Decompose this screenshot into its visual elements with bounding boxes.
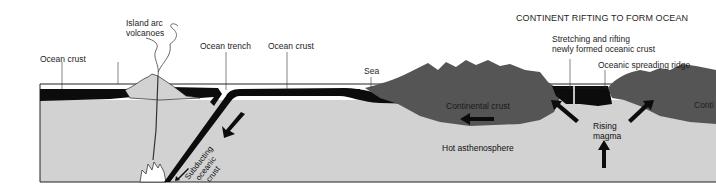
label-hot-asthenosphere: Hot asthenosphere [442,143,514,153]
label-rising-magma: Rising magma [593,121,621,141]
label-sea: Sea [364,66,379,76]
label-ocean-trench: Ocean trench [200,41,251,51]
label-continental-crust: Continental crust [446,101,510,111]
volcano-cone [125,74,200,100]
label-continental-right: Conti [694,100,714,110]
label-ocean-crust-mid: Ocean crust [268,41,314,51]
label-ocean-crust-left: Ocean crust [40,54,86,64]
label-spreading-ridge: Oceanic spreading ridge [598,60,690,70]
rifting-diagram [0,0,716,193]
label-stretching: Stretching and rifting newly formed ocea… [552,34,655,54]
label-island-arc: Island arc volcanoes [126,18,164,38]
diagram-title: CONTINENT RIFTING TO FORM OCEAN [516,13,688,23]
mantle-body [40,100,716,182]
